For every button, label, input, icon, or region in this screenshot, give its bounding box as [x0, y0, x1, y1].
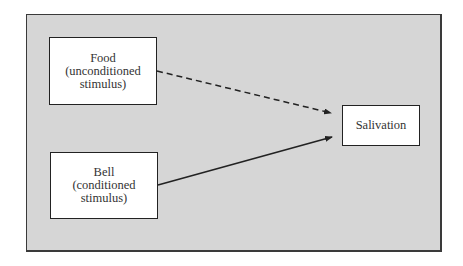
node-food-subtitle: (unconditioned	[65, 65, 141, 78]
node-bell: Bell (conditioned stimulus)	[50, 152, 158, 219]
node-bell-subtitle-2: stimulus)	[81, 192, 128, 205]
node-food-subtitle-2: stimulus)	[80, 78, 127, 91]
node-food: Food (unconditioned stimulus)	[49, 37, 157, 105]
node-salivation: Salivation	[342, 105, 420, 146]
node-salivation-title: Salivation	[356, 119, 407, 132]
node-food-title: Food	[90, 52, 116, 65]
